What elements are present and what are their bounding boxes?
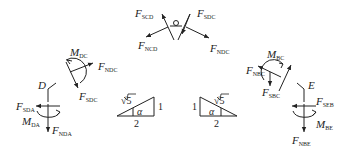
node-label-e: E: [307, 79, 315, 91]
arrow-f-sbc: [279, 65, 291, 91]
free-body-diagram: FSCD FSDC FNCD FNDC MDC FNDC FSDC D FSDA…: [0, 0, 342, 153]
tri-right-base: 2: [214, 118, 219, 129]
joint-d-member: [48, 83, 56, 102]
label-f-ndc-top: FNDC: [209, 42, 229, 55]
arrow-f-ndc-left: [70, 63, 93, 72]
label-m-bc: MBC: [266, 48, 284, 61]
member-dc-group: MDC FNDC FSDC: [66, 46, 117, 103]
label-m-dc: MDC: [69, 46, 88, 59]
triangle-right: √5 1 α 2: [192, 94, 237, 129]
label-m-da: MDA: [21, 115, 41, 128]
joint-e-group: E FSEB MBE FNBE: [291, 79, 334, 147]
label-f-sdc: FSDC: [196, 7, 215, 20]
tri-right-angle: α: [209, 106, 215, 117]
arrow-f-ndc-top: [186, 27, 209, 38]
label-f-nda: FNDA: [51, 124, 72, 137]
hinge-c-group: FSCD FSDC FNCD FNDC: [134, 7, 229, 55]
label-f-sdc-left: FSDC: [78, 90, 97, 103]
arrow-f-ncd: [146, 27, 168, 37]
tri-left-vertical: 1: [158, 101, 163, 112]
joint-e-member: [297, 83, 304, 102]
tri-right-vertical: 1: [192, 101, 197, 112]
label-f-ndc-left: FNDC: [97, 60, 117, 73]
label-f-sda: FSDA: [15, 100, 35, 113]
tri-right-hyp: √5: [214, 95, 225, 106]
label-f-nbe: FNBE: [291, 134, 311, 147]
tri-left-hyp: √5: [121, 95, 132, 106]
arrow-f-sdc: [182, 14, 190, 34]
hinge-icon: [174, 21, 179, 26]
member-bc-group: MBC FNBC FSBC: [245, 48, 291, 99]
node-label-d: D: [37, 79, 46, 91]
label-f-ncd: FNCD: [137, 39, 158, 52]
tri-left-base: 2: [134, 118, 139, 129]
label-f-sbc: FSBC: [261, 86, 280, 99]
arrow-f-sdc-left: [66, 62, 78, 88]
label-f-seb: FSEB: [315, 95, 334, 108]
triangle-left: √5 1 α 2: [117, 94, 163, 129]
joint-d-group: D FSDA MDA FNDA: [15, 79, 72, 137]
tri-left-angle: α: [137, 106, 143, 117]
moment-arc-dc: [66, 58, 86, 83]
label-f-scd: FSCD: [134, 7, 154, 20]
label-m-be: MBE: [315, 118, 333, 131]
